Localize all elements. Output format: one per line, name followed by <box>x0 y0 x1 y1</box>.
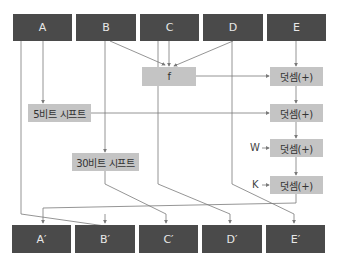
register-label: A′ <box>36 233 46 246</box>
op-label: 덧셈(+) <box>280 106 313 121</box>
op-label: 5비트 시프트 <box>33 106 85 121</box>
input-register-e: E <box>267 14 326 41</box>
input-register-a: A <box>13 14 72 41</box>
register-label: B <box>102 21 110 34</box>
output-register-c: C′ <box>139 225 198 253</box>
output-register-b: B′ <box>75 225 135 253</box>
op-label: 덧셈(+) <box>280 69 313 84</box>
adder-3-box: 덧셈(+) <box>270 139 323 157</box>
sha1-round-diagram: A B C D E f 5비트 시프트 30비트 시프트 덧셈(+) 덧셈(+)… <box>0 0 339 266</box>
function-f-box: f <box>142 67 196 86</box>
register-label: E′ <box>291 233 300 246</box>
register-label: B′ <box>100 233 110 246</box>
register-label: D <box>229 21 237 34</box>
register-label: E <box>293 21 300 34</box>
op-label: 덧셈(+) <box>280 141 313 156</box>
op-label: f <box>167 71 170 82</box>
op-label: 덧셈(+) <box>280 178 313 193</box>
input-register-d: D <box>203 14 263 41</box>
register-label: A <box>39 21 47 34</box>
k-input-label: K <box>252 179 259 190</box>
register-label: C′ <box>163 233 173 246</box>
input-register-b: B <box>76 14 136 41</box>
adder-1-box: 덧셈(+) <box>270 67 323 86</box>
op-label: 30비트 시프트 <box>76 155 135 170</box>
register-label: C <box>166 21 174 34</box>
adder-4-box: 덧셈(+) <box>270 176 323 194</box>
output-register-d: D′ <box>202 225 262 253</box>
output-register-a: A′ <box>12 225 71 253</box>
adder-2-box: 덧셈(+) <box>270 104 323 122</box>
shift-30bit-box: 30비트 시프트 <box>72 153 139 171</box>
input-register-c: C <box>140 14 199 41</box>
output-register-e: E′ <box>266 225 325 253</box>
w-input-label: W <box>250 142 260 153</box>
shift-5bit-box: 5비트 시프트 <box>28 104 91 122</box>
register-label: D′ <box>227 233 238 246</box>
